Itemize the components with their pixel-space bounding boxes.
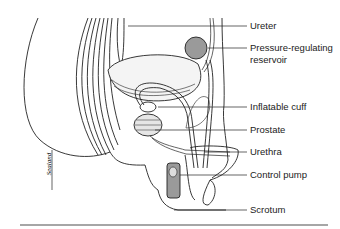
label-prostate: Prostate [250,124,285,135]
label-scrotum: Scrotum [250,204,285,215]
label-ureter: Ureter [250,20,276,31]
label-reservoir-line2: reservoir [250,54,287,65]
diagram-illustration [0,0,340,229]
label-control-pump: Control pump [250,169,307,180]
label-inflatable-cuff: Inflatable cuff [250,101,306,112]
anatomy-diagram: Ureter Pressure-regulating reservoir Inf… [0,0,340,229]
label-reservoir: Pressure-regulating [250,42,333,53]
label-urethra: Urethra [250,146,282,157]
artist-signature: Sealand [45,153,53,176]
